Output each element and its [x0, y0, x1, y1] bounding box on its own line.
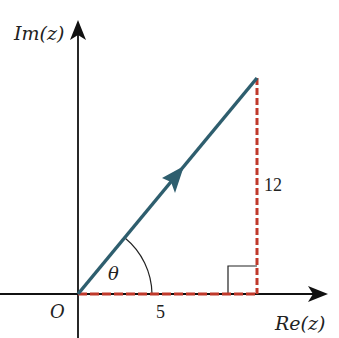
right-angle-marker	[228, 266, 257, 294]
real-part-label: 5	[156, 302, 165, 322]
vector-line	[78, 78, 257, 294]
imaginary-axis	[70, 20, 86, 338]
imaginary-part-label: 12	[264, 175, 282, 195]
angle-arc	[125, 238, 152, 294]
argand-diagram: Im(z) Re(z) O θ 5 12	[0, 0, 339, 338]
imaginary-axis-label: Im(z)	[13, 22, 64, 44]
real-axis-label: Re(z)	[274, 312, 325, 334]
origin-label: O	[50, 301, 65, 322]
angle-label: θ	[108, 263, 119, 284]
